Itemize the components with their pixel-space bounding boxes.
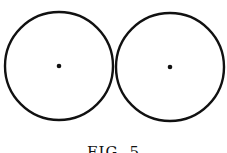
left-center-dot <box>57 64 62 69</box>
right-center-dot <box>168 65 173 70</box>
figure-diagram <box>0 0 227 153</box>
figure-caption: FIG. 5 <box>0 143 227 153</box>
